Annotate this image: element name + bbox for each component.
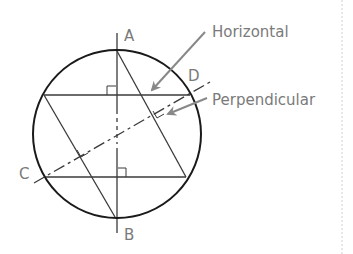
perpendicular-callout-arrow: [168, 98, 207, 114]
right-angle-marker-lower: [118, 168, 126, 177]
callout-label-perpendicular: Perpendicular: [212, 91, 316, 109]
chord-a-to-lower-right: [117, 51, 186, 177]
right-angle-marker-left: [77, 150, 88, 157]
circle-construction-diagram: A B C D Horizontal Perpendicular: [0, 0, 353, 254]
point-label-b: B: [124, 226, 134, 244]
chord-upper-left-to-b: [44, 95, 115, 217]
right-angle-marker-upper: [107, 86, 116, 95]
point-label-a: A: [124, 27, 135, 45]
callout-label-horizontal: Horizontal: [212, 23, 289, 41]
point-label-c: C: [19, 165, 29, 183]
point-label-d: D: [188, 67, 200, 85]
